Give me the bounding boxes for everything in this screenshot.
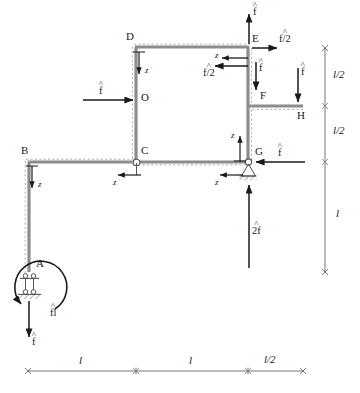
force-label-at-E-up: f [253, 7, 257, 18]
node-label-E: E [252, 33, 259, 44]
z-label-at-GF: z [231, 131, 235, 140]
dim-label-h-1: l [79, 355, 82, 366]
node-label-F: F [260, 90, 266, 101]
z-label-at-G: z [215, 178, 219, 187]
node-label-C: C [141, 145, 148, 156]
double-link-support-A [18, 274, 41, 299]
z-label-at-D: z [145, 66, 149, 75]
z-label-at-B: z [38, 180, 42, 189]
dim-label-h-3: l/2 [264, 354, 276, 365]
reference-fiber-dashed-lines [25, 44, 303, 273]
z-label-at-E: z [215, 51, 219, 60]
node-label-H: H [297, 110, 305, 121]
f-hat-glyph-g: f [278, 148, 282, 159]
force-label-at-E-right: f/2 [279, 34, 291, 45]
force-label-at-E-left: f/2 [203, 68, 215, 79]
force-label-at-A-down: f [32, 337, 36, 348]
z-label-at-C: z [113, 178, 117, 187]
f-hat-half-glyph: f/2 [279, 34, 291, 45]
f-hat-glyph-a: f [32, 337, 36, 348]
node-label-D: D [126, 31, 134, 42]
force-label-at-EF-down: f [259, 63, 263, 74]
f-hat-glyph-ef: f [259, 63, 263, 74]
dim-label-h-2: l [189, 355, 192, 366]
force-label-below-G-up: 2f [252, 226, 261, 237]
horizontal-dimension-line [28, 368, 303, 375]
f-hat-half-glyph-left: f/2 [203, 68, 215, 79]
dim-label-v-3: l [336, 208, 339, 219]
node-label-G: G [255, 146, 263, 157]
frame-diagram-svg [0, 0, 360, 393]
node-label-A: A [36, 258, 44, 269]
force-label-at-G-left: f [278, 148, 282, 159]
force-label-at-H-down: f [301, 67, 305, 78]
force-arrows [29, 14, 305, 337]
hinge-C [133, 159, 140, 175]
figure-canvas: A B C D O E F G H f f/2 f/2 f f f f 2f f… [0, 0, 360, 393]
E-left-arrows [215, 58, 248, 66]
dim-label-v-2: l/2 [333, 125, 345, 136]
vertical-dimension-line [322, 48, 328, 272]
node-label-O: O [141, 92, 149, 103]
f-hat-l-glyph: fl [50, 308, 56, 319]
node-label-B: B [21, 145, 28, 156]
dim-label-v-1: l/2 [333, 69, 345, 80]
force-label-at-O-right: f [99, 86, 103, 97]
moment-label-at-A: fl [50, 308, 56, 319]
two-f-hat-glyph: 2f [252, 226, 261, 237]
f-hat-glyph-h: f [301, 67, 305, 78]
f-hat-glyph: f [253, 7, 257, 18]
f-hat-glyph-o: f [99, 86, 103, 97]
frame-members [28, 47, 303, 272]
